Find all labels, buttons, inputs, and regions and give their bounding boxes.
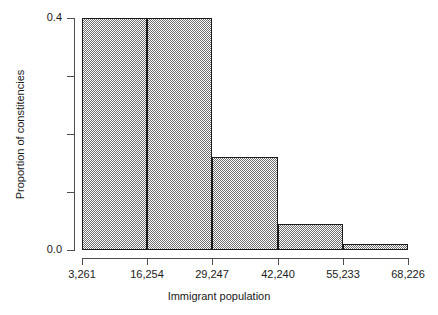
y-tick-0.3 bbox=[67, 76, 74, 77]
plot-area bbox=[82, 18, 408, 250]
histogram-bar-4 bbox=[278, 224, 343, 250]
x-tick-1 bbox=[82, 258, 83, 265]
x-tick-label-6: 68,226 bbox=[373, 268, 438, 280]
y-tick-label-0.0: 0.0 bbox=[32, 244, 62, 255]
histogram-bar-3 bbox=[212, 157, 277, 250]
y-axis-title: Proportion of constitencies bbox=[14, 45, 27, 225]
y-tick-label-wrap-bottom: 0.0 bbox=[32, 250, 62, 251]
x-tick-3 bbox=[212, 258, 213, 265]
histogram-bar-1 bbox=[82, 18, 147, 250]
histogram-bar-5 bbox=[343, 244, 408, 250]
y-tick-0.0 bbox=[67, 250, 74, 251]
x-tick-5 bbox=[343, 258, 344, 265]
y-tick-0.2 bbox=[67, 134, 74, 135]
x-tick-2 bbox=[147, 258, 148, 265]
y-axis-line bbox=[74, 18, 75, 251]
x-tick-label-3: 29,247 bbox=[177, 268, 247, 280]
y-tick-0.4 bbox=[67, 18, 74, 19]
x-axis-line bbox=[82, 258, 409, 259]
y-tick-label-0.4: 0.4 bbox=[32, 12, 62, 23]
y-tick-label-wrap-top: 0.4 bbox=[32, 18, 62, 19]
x-tick-4 bbox=[278, 258, 279, 265]
x-tick-6 bbox=[408, 258, 409, 265]
x-tick-label-5: 55,233 bbox=[308, 268, 378, 280]
y-tick-0.1 bbox=[67, 192, 74, 193]
x-tick-label-2: 16,254 bbox=[112, 268, 182, 280]
histogram-bar-2 bbox=[147, 18, 212, 250]
x-tick-label-4: 42,240 bbox=[243, 268, 313, 280]
x-tick-label-1: 3,261 bbox=[47, 268, 117, 280]
histogram-figure: 0.4 0.0 3,261 16,254 29,247 42,240 55,23… bbox=[0, 0, 438, 315]
x-axis-title: Immigrant population bbox=[0, 290, 438, 303]
